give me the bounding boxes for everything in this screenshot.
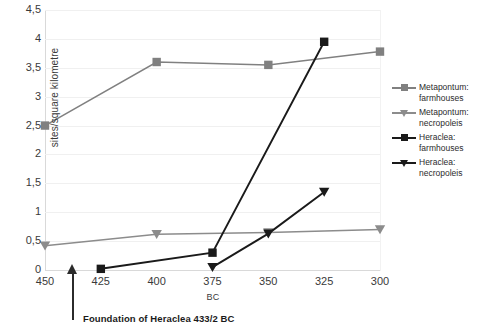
legend-triangle-marker-icon: [392, 107, 416, 118]
legend-triangle-marker-icon: [392, 157, 416, 168]
chart-root: 00,511,522,533,544,5 4504254003753503253…: [0, 0, 489, 336]
legend-label-line1: Heraclea:: [419, 132, 489, 143]
series-group: [97, 38, 329, 273]
series-line: [45, 52, 380, 126]
legend-square-marker-icon: [392, 82, 416, 93]
legend-label: Heraclea:necropoleis: [419, 157, 489, 179]
legend-label: Metapontum:necropoleis: [419, 107, 489, 129]
data-point-square-marker: [152, 58, 160, 66]
y-tick-label: 1,5: [1, 177, 41, 188]
legend-label: Heraclea:farmhouses: [419, 132, 489, 154]
y-axis-tick-labels: 00,511,522,533,544,5: [0, 0, 41, 281]
series-group: [40, 225, 385, 250]
y-tick-label: 3,5: [1, 62, 41, 73]
legend-item[interactable]: Metapontum:farmhouses: [392, 82, 489, 104]
y-tick-label: 0: [1, 264, 41, 275]
legend-label-line1: Heraclea:: [419, 157, 489, 168]
legend-label-line2: necropoleis: [419, 168, 489, 179]
legend-item[interactable]: Heraclea:necropoleis: [392, 157, 489, 179]
legend-label-line2: farmhouses: [419, 93, 489, 104]
legend: Metapontum:farmhousesMetapontum:necropol…: [392, 82, 489, 182]
x-tick-label: 325: [304, 275, 344, 287]
data-point-triangle-marker: [263, 229, 273, 238]
legend-label: Metapontum:farmhouses: [419, 82, 489, 104]
y-tick-label: 0,5: [1, 235, 41, 246]
data-point-square-marker: [320, 38, 328, 46]
series-line: [45, 230, 380, 246]
legend-label-line1: Metapontum:: [419, 107, 489, 118]
series-layer: [45, 10, 380, 270]
legend-label-line2: necropoleis: [419, 118, 489, 129]
x-axis-title: BC: [183, 292, 243, 302]
series-line: [101, 42, 324, 269]
data-point-square-marker: [376, 47, 384, 55]
data-point-square-marker: [208, 248, 216, 256]
x-tick-label: 400: [137, 275, 177, 287]
legend-label-line2: farmhouses: [419, 143, 489, 154]
x-tick-label: 350: [248, 275, 288, 287]
x-tick-label: 450: [25, 275, 65, 287]
y-tick-label: 4,5: [1, 4, 41, 15]
y-tick-label: 2,5: [1, 120, 41, 131]
series-group: [41, 47, 384, 129]
legend-label-line1: Metapontum:: [419, 82, 489, 93]
legend-item[interactable]: Metapontum:necropoleis: [392, 107, 489, 129]
x-tick-label: 375: [193, 275, 233, 287]
y-tick-label: 3: [1, 91, 41, 102]
annotation-arrow-shaft: [72, 272, 74, 320]
data-point-square-marker: [97, 265, 105, 273]
y-tick-label: 2: [1, 148, 41, 159]
x-tick-label: 300: [360, 275, 400, 287]
plot-area: [45, 10, 380, 270]
legend-item[interactable]: Heraclea:farmhouses: [392, 132, 489, 154]
data-point-square-marker: [264, 61, 272, 69]
y-tick-label: 1: [1, 206, 41, 217]
x-tick-label: 425: [81, 275, 121, 287]
legend-square-marker-icon: [392, 132, 416, 143]
annotation-label: Foundation of Heraclea 433/2 BC: [83, 313, 234, 324]
y-axis-title: sites/square kilometre: [49, 38, 60, 158]
y-tick-label: 4: [1, 33, 41, 44]
